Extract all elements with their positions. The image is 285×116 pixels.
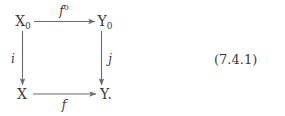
node-top-right: Y0 bbox=[98, 14, 113, 28]
arrow-label-right-base: j bbox=[108, 52, 112, 66]
node-top-left: X0 bbox=[15, 14, 31, 28]
node-top-left-base: X bbox=[15, 13, 25, 29]
node-bottom-right-period: . bbox=[107, 86, 111, 102]
arrow-label-bottom-base: f bbox=[62, 98, 66, 112]
node-top-right-base: Y bbox=[98, 13, 107, 29]
commutative-diagram: X0 Y0 X Y. f0 i j f bbox=[0, 0, 140, 116]
equation-number: (7.4.1) bbox=[214, 53, 257, 66]
node-top-left-subscript: 0 bbox=[25, 21, 31, 31]
arrow-label-right: j bbox=[108, 53, 112, 65]
arrow-label-top-superscript: 0 bbox=[64, 3, 69, 12]
page-canvas: X0 Y0 X Y. f0 i j f (7.4.1) bbox=[0, 0, 285, 116]
arrow-label-left: i bbox=[11, 53, 15, 65]
arrow-label-left-base: i bbox=[11, 52, 15, 66]
node-bottom-left: X bbox=[17, 87, 27, 101]
arrow-label-top: f0 bbox=[59, 5, 69, 17]
node-top-right-subscript: 0 bbox=[107, 21, 113, 31]
arrow-label-bottom: f bbox=[62, 99, 66, 111]
node-bottom-right: Y. bbox=[100, 87, 112, 101]
node-bottom-left-base: X bbox=[17, 86, 27, 102]
